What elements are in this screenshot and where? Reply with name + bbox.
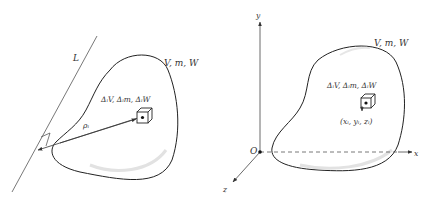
right-angle-marker — [41, 133, 50, 146]
body-outline — [52, 55, 178, 180]
label-y-axis: y — [255, 11, 261, 20]
left-figure: L V, m, W ΔᵢV, Δᵢm, ΔᵢW ρᵢ — [12, 36, 199, 192]
label-x-axis: x — [414, 149, 419, 158]
diagram-canvas: L V, m, W ΔᵢV, Δᵢm, ΔᵢW ρᵢ y x z O V, — [0, 0, 428, 206]
label-L: L — [72, 53, 79, 63]
label-coordinates: (xᵢ, yᵢ, zᵢ) — [340, 117, 372, 126]
label-z-axis: z — [222, 185, 227, 194]
right-figure: y x z O V, m, W ΔᵢV, Δᵢm, ΔᵢW (xᵢ, yᵢ, z… — [222, 11, 419, 194]
origin-point — [258, 150, 262, 154]
label-element: ΔᵢV, Δᵢm, ΔᵢW — [100, 95, 152, 104]
label-origin: O — [250, 146, 258, 156]
z-axis — [233, 152, 260, 182]
label-rho: ρᵢ — [82, 121, 89, 130]
label-element: ΔᵢV, Δᵢm, ΔᵢW — [326, 81, 378, 90]
label-body: V, m, W — [164, 58, 199, 68]
label-body: V, m, W — [374, 38, 409, 48]
